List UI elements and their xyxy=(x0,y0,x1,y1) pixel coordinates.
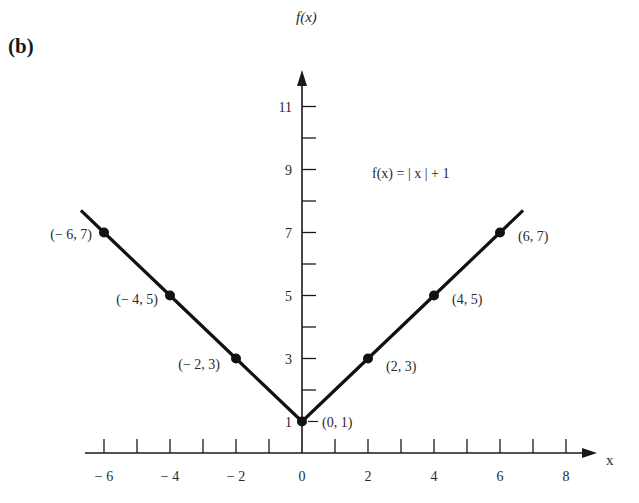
x-tick-label: 6 xyxy=(497,469,504,484)
y-tick-label: 7 xyxy=(285,226,292,241)
x-axis-arrow-icon xyxy=(582,448,597,458)
x-tick-label: 4 xyxy=(431,469,438,484)
x-tick-label: 2 xyxy=(365,469,372,484)
equation-label: f(x) = | x | + 1 xyxy=(372,166,449,182)
x-tick-label: − 6 xyxy=(95,469,113,484)
figure: (b) − 6− 4− 2024681357911 (− 6, 7)(− 4, … xyxy=(0,0,639,503)
x-tick-label: 0 xyxy=(299,469,306,484)
y-tick-label: 1 xyxy=(285,415,292,430)
data-point-label: (− 4, 5) xyxy=(116,292,158,308)
x-tick-label: − 4 xyxy=(161,469,179,484)
x-axis-title: x xyxy=(606,452,614,468)
data-point-marker xyxy=(165,291,175,301)
y-tick-label: 9 xyxy=(285,163,292,178)
data-point-marker xyxy=(297,417,307,427)
data-point-label: (2, 3) xyxy=(386,359,417,375)
x-tick-label: − 2 xyxy=(227,469,245,484)
data-point-label: (6, 7) xyxy=(518,229,549,245)
y-tick-label: 11 xyxy=(279,100,292,115)
y-axis-title: f(x) xyxy=(296,9,317,26)
data-point-label: (0, 1) xyxy=(322,415,353,431)
data-point-label: (− 2, 3) xyxy=(178,357,220,373)
data-point-label: (− 6, 7) xyxy=(50,227,92,243)
x-tick-label: 8 xyxy=(563,469,570,484)
y-tick-label: 3 xyxy=(285,352,292,367)
data-point-label: (4, 5) xyxy=(452,292,483,308)
y-tick-label: 5 xyxy=(285,289,292,304)
data-point-marker xyxy=(99,228,109,238)
data-point-marker xyxy=(363,354,373,364)
y-axis-arrow-icon xyxy=(297,70,307,86)
data-point-marker xyxy=(429,291,439,301)
data-point-marker xyxy=(495,228,505,238)
data-point-marker xyxy=(231,354,241,364)
plot-area: − 6− 4− 2024681357911 (− 6, 7)(− 4, 5)(−… xyxy=(0,0,639,503)
